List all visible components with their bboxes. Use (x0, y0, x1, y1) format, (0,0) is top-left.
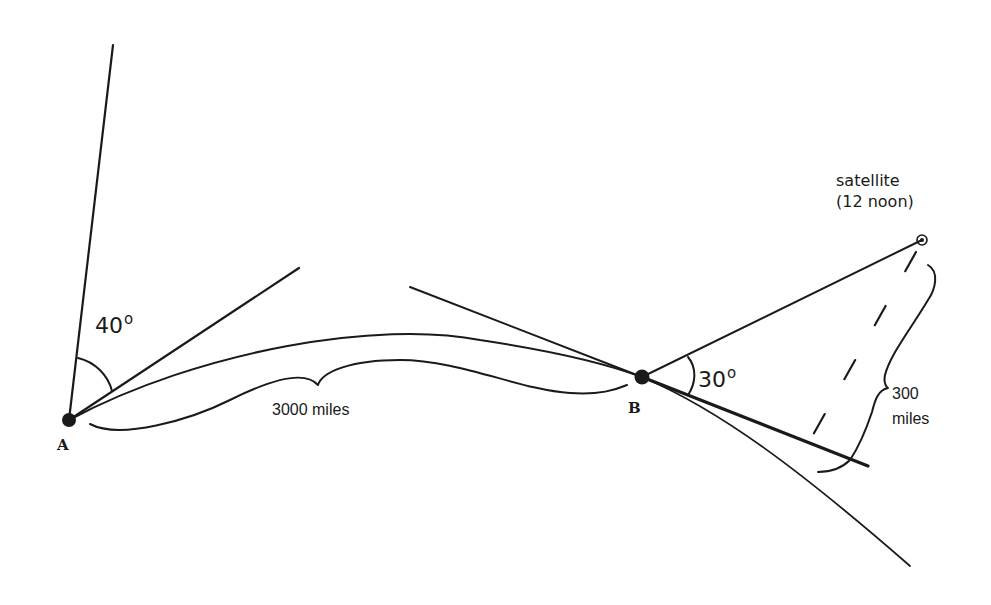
point-b-dot (635, 370, 650, 385)
height-label: 300 miles (892, 381, 929, 431)
satellite-time: (12 noon) (836, 191, 914, 212)
distance-label-a-b: 3000 miles (272, 401, 349, 419)
horizon-line-b (642, 377, 868, 466)
degree-symbol-a: o (124, 310, 133, 328)
angle-a-value: 40 (95, 313, 123, 338)
satellite-dot (920, 238, 924, 242)
sight-line-a (69, 268, 299, 420)
height-unit: miles (892, 406, 929, 431)
degree-symbol-b: o (727, 364, 736, 382)
tangent-line-b (410, 287, 642, 377)
brace-3000-miles (90, 360, 627, 430)
angle-arc-b (688, 357, 694, 395)
satellite-name: satellite (836, 170, 914, 191)
angle-label-a: 40o (95, 310, 133, 338)
point-a-label: A (57, 436, 69, 454)
point-b-label: B (628, 399, 641, 417)
earth-surface-arc (69, 334, 642, 420)
angle-arc-a (78, 358, 112, 391)
point-a-dot (62, 413, 76, 427)
satellite-label: satellite (12 noon) (836, 170, 914, 212)
angle-b-value: 30 (698, 367, 726, 392)
diagram-canvas (0, 0, 991, 605)
height-value: 300 (892, 381, 929, 406)
brace-300-miles (818, 265, 935, 472)
angle-label-b: 30o (698, 364, 736, 392)
sight-line-b (642, 240, 922, 377)
earth-curve-beyond-b (642, 377, 910, 566)
